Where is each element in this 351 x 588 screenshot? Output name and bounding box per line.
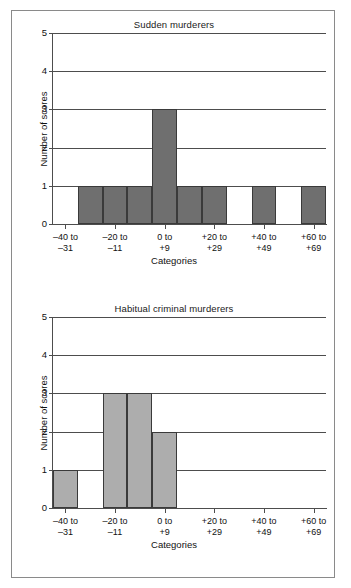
chart-panel-habitual-criminal-murderers: Habitual criminal murderers Number of sc… (12, 295, 336, 579)
x-tick-label-line2: +49 (251, 243, 276, 254)
y-tick-label: 2 (42, 427, 47, 437)
x-tick-label-line2: +9 (157, 243, 172, 254)
histogram-bar (152, 109, 177, 224)
x-tick-label: –20 to–11 (103, 516, 128, 538)
x-tick-label: –20 to–11 (103, 232, 128, 254)
chart-title: Sudden murderers (12, 19, 336, 30)
bars-layer (53, 317, 326, 508)
x-tick-mark (165, 509, 166, 513)
x-tick-label-line1: –20 to (103, 516, 128, 527)
histogram-bar (301, 186, 326, 224)
x-tick-label-line1: 0 to (157, 516, 172, 527)
x-axis-line (52, 224, 327, 225)
x-tick-label-line1: –40 to (53, 232, 78, 243)
histogram-bar (78, 186, 103, 224)
x-tick-label-line1: –40 to (53, 516, 78, 527)
histogram-bar (103, 186, 128, 224)
chart-panel-sudden-murderers: Sudden murderers Number of scores 012345… (12, 11, 336, 295)
x-tick-label-line1: –20 to (103, 232, 128, 243)
x-tick-label: +40 to+49 (251, 232, 276, 254)
x-tick-mark (65, 509, 66, 513)
histogram-bar (152, 432, 177, 508)
x-tick-label-line1: +60 to (301, 232, 326, 243)
x-tick-mark (314, 225, 315, 229)
x-axis-label: Categories (12, 539, 336, 550)
x-tick-label-line1: 0 to (157, 232, 172, 243)
x-tick-label: +40 to+49 (251, 516, 276, 538)
x-tick-label-line2: –11 (103, 243, 128, 254)
x-tick-label-line2: +69 (301, 527, 326, 538)
x-tick-mark (115, 225, 116, 229)
y-tick-mark (49, 224, 53, 225)
plot-area-bottom: Number of scores 012345 –40 to–31–20 to–… (53, 317, 326, 508)
x-tick-label: +20 to+29 (202, 232, 227, 254)
x-axis-label: Categories (12, 255, 336, 266)
y-tick-label: 3 (42, 389, 47, 399)
x-tick-mark (214, 225, 215, 229)
histogram-bar (252, 186, 277, 224)
x-tick-label: –40 to–31 (53, 516, 78, 538)
histogram-bar (127, 393, 152, 508)
bars-layer (53, 33, 326, 224)
histogram-bar (202, 186, 227, 224)
y-tick-label: 0 (42, 503, 47, 513)
x-tick-label-line2: +29 (202, 527, 227, 538)
x-tick-label-line2: –11 (103, 527, 128, 538)
x-tick-label: 0 to+9 (157, 516, 172, 538)
x-tick-label-line2: –31 (53, 527, 78, 538)
x-tick-mark (65, 225, 66, 229)
x-tick-label: +20 to+29 (202, 516, 227, 538)
x-tick-label-line2: –31 (53, 243, 78, 254)
x-tick-label: 0 to+9 (157, 232, 172, 254)
x-tick-mark (165, 225, 166, 229)
y-tick-label: 5 (42, 312, 47, 322)
y-tick-label: 4 (42, 66, 47, 76)
x-tick-label-line1: +40 to (251, 516, 276, 527)
figure-drop-shadow-right (338, 16, 347, 582)
y-tick-label: 2 (42, 143, 47, 153)
x-tick-mark (264, 225, 265, 229)
x-tick-label-line2: +29 (202, 243, 227, 254)
x-tick-mark (264, 509, 265, 513)
x-tick-label-line1: +20 to (202, 516, 227, 527)
x-tick-label-line2: +69 (301, 243, 326, 254)
histogram-bar (103, 393, 128, 508)
y-tick-label: 0 (42, 219, 47, 229)
x-axis-line (52, 508, 327, 509)
figure-frame: Sudden murderers Number of scores 012345… (11, 10, 335, 578)
x-tick-label: +60 to+69 (301, 516, 326, 538)
chart-title: Habitual criminal murderers (12, 303, 336, 314)
x-tick-label-line2: +49 (251, 527, 276, 538)
y-tick-mark (49, 508, 53, 509)
y-tick-label: 4 (42, 350, 47, 360)
figure-drop-shadow-bottom (17, 580, 341, 586)
x-tick-mark (115, 509, 116, 513)
x-tick-label: –40 to–31 (53, 232, 78, 254)
x-tick-label-line1: +20 to (202, 232, 227, 243)
y-tick-label: 5 (42, 28, 47, 38)
histogram-bar (177, 186, 202, 224)
histogram-bar (127, 186, 152, 224)
x-tick-label-line2: +9 (157, 527, 172, 538)
y-tick-label: 1 (42, 181, 47, 191)
x-tick-label: +60 to+69 (301, 232, 326, 254)
x-tick-label-line1: +60 to (301, 516, 326, 527)
histogram-bar (53, 470, 78, 508)
x-tick-mark (214, 509, 215, 513)
y-tick-label: 1 (42, 465, 47, 475)
plot-area-top: Number of scores 012345 –40 to–31–20 to–… (53, 33, 326, 224)
x-tick-label-line1: +40 to (251, 232, 276, 243)
y-tick-label: 3 (42, 105, 47, 115)
x-tick-mark (314, 509, 315, 513)
